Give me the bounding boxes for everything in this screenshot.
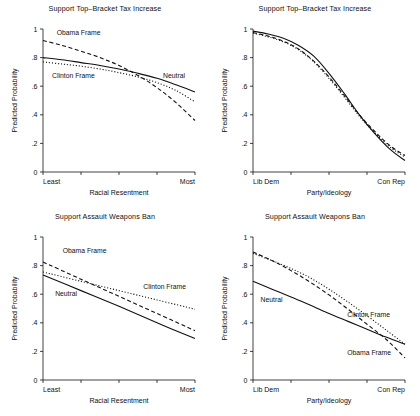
x-axis-title: Party/Ideology bbox=[307, 189, 352, 197]
y-tick-label: .6 bbox=[32, 291, 38, 298]
y-tick-label: .4 bbox=[32, 111, 38, 118]
y-tick-label: .8 bbox=[32, 54, 38, 61]
series-line-clinton-frame bbox=[253, 33, 405, 157]
figure-panel-grid: Support Top–Bracket Tax Increase 0.2.4.6… bbox=[0, 0, 420, 416]
chart-panel-bottom-right: Support Assault Weapons Ban 0.2.4.6.81Li… bbox=[210, 208, 420, 416]
y-tick-label: .6 bbox=[242, 83, 248, 90]
plot-area-bottom-right: 0.2.4.6.81Lib DemCon RepParty/IdeologyPr… bbox=[210, 208, 420, 416]
series-label-clinton-frame: Clinton Frame bbox=[52, 72, 95, 79]
y-tick-label: 0 bbox=[244, 169, 248, 176]
series-label-clinton-frame: Clinton Frame bbox=[347, 311, 390, 318]
series-line-obama-frame bbox=[253, 252, 405, 358]
x-tick-label-max: Most bbox=[180, 178, 195, 185]
y-tick-label: .8 bbox=[32, 262, 38, 269]
plot-area-bottom-left: 0.2.4.6.81LeastMostRacial ResentmentPred… bbox=[0, 208, 210, 416]
y-tick-label: .2 bbox=[242, 348, 248, 355]
y-tick-label: 1 bbox=[34, 26, 38, 33]
y-axis-title: Predicted Probability bbox=[11, 276, 19, 341]
series-line-obama-frame bbox=[253, 33, 405, 156]
series-label-neutral: Neutral bbox=[55, 290, 77, 297]
x-tick-label-max: Most bbox=[180, 386, 195, 393]
y-tick-label: .6 bbox=[242, 291, 248, 298]
series-label-obama-frame: Obama Frame bbox=[57, 29, 101, 36]
x-tick-label-min: Lib Dem bbox=[253, 386, 279, 393]
y-tick-label: .2 bbox=[242, 140, 248, 147]
y-tick-label: 1 bbox=[244, 26, 248, 33]
y-axis-title: Predicted Probability bbox=[221, 68, 229, 133]
x-tick-label-min: Least bbox=[43, 386, 60, 393]
series-line-clinton-frame bbox=[43, 62, 195, 102]
chart-panel-top-right: Support Top–Bracket Tax Increase 0.2.4.6… bbox=[210, 0, 420, 208]
chart-panel-bottom-left: Support Assault Weapons Ban 0.2.4.6.81Le… bbox=[0, 208, 210, 416]
series-line-obama-frame bbox=[43, 40, 195, 120]
series-label-neutral: Neutral bbox=[163, 72, 185, 79]
plot-area-top-right: 0.2.4.6.81Lib DemCon RepParty/IdeologyPr… bbox=[210, 0, 420, 208]
series-label-obama-frame: Obama Frame bbox=[63, 247, 107, 254]
y-tick-label: .8 bbox=[242, 54, 248, 61]
y-tick-label: .4 bbox=[242, 111, 248, 118]
y-tick-label: 1 bbox=[244, 234, 248, 241]
y-tick-label: .6 bbox=[32, 83, 38, 90]
x-tick-label-max: Con Rep bbox=[377, 386, 405, 394]
series-label-neutral: Neutral bbox=[261, 296, 283, 303]
x-axis-title: Racial Resentment bbox=[89, 189, 148, 196]
y-tick-label: .8 bbox=[242, 262, 248, 269]
x-tick-label-max: Con Rep bbox=[377, 178, 405, 186]
y-tick-label: .4 bbox=[242, 319, 248, 326]
x-tick-label-min: Least bbox=[43, 178, 60, 185]
y-tick-label: .4 bbox=[32, 319, 38, 326]
y-tick-label: 0 bbox=[244, 377, 248, 384]
series-label-obama-frame: Obama Frame bbox=[347, 349, 391, 356]
y-tick-label: .2 bbox=[32, 348, 38, 355]
x-axis-title: Party/Ideology bbox=[307, 397, 352, 405]
plot-area-top-left: 0.2.4.6.81LeastMostRacial ResentmentPred… bbox=[0, 0, 210, 208]
series-line-neutral bbox=[253, 31, 405, 160]
y-tick-label: 0 bbox=[34, 377, 38, 384]
y-axis-title: Predicted Probability bbox=[221, 276, 229, 341]
series-label-clinton-frame: Clinton Frame bbox=[143, 283, 186, 290]
y-tick-label: 1 bbox=[34, 234, 38, 241]
y-tick-label: .2 bbox=[32, 140, 38, 147]
x-tick-label-min: Lib Dem bbox=[253, 178, 279, 185]
y-axis-title: Predicted Probability bbox=[11, 68, 19, 133]
chart-panel-top-left: Support Top–Bracket Tax Increase 0.2.4.6… bbox=[0, 0, 210, 208]
x-axis-title: Racial Resentment bbox=[89, 397, 148, 404]
y-tick-label: 0 bbox=[34, 169, 38, 176]
